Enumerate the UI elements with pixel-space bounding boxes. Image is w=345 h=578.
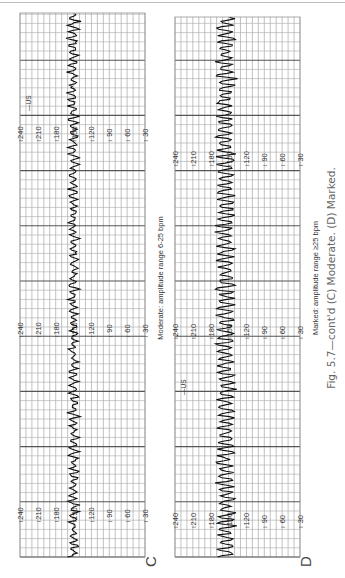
us-marker: —US (180, 379, 187, 395)
y-tick-label: 30 (296, 326, 305, 334)
figure-caption: Fig. 5.7—cont'd (C) Moderate. (D) Marked… (325, 167, 337, 389)
y-tick-label: 240 (16, 322, 25, 335)
y-tick-label: 60 (278, 326, 287, 334)
panel-d-title: Marked: amplitude range ≥25 bpm (311, 221, 320, 335)
y-tick-label: 210 (189, 151, 198, 164)
y-tick-label: 180 (52, 322, 61, 335)
y-tick-label: 90 (105, 509, 114, 517)
y-tick-label: 30 (296, 515, 305, 523)
panel-c-strip: 2402101801501209060302402101801501209060… (16, 13, 150, 557)
y-tick-label: 240 (171, 151, 180, 164)
y-tick-label: 30 (296, 153, 305, 161)
y-tick-label: 120 (87, 126, 96, 139)
panel-d-strip: 2402101801501209060302402101801501209060… (171, 17, 305, 557)
y-tick-label: 240 (16, 126, 25, 139)
y-tick-label: 90 (260, 153, 269, 161)
fhr-trace (215, 18, 238, 558)
strip-border (20, 13, 145, 557)
y-tick-label: 120 (242, 324, 251, 337)
y-tick-label: 180 (52, 507, 61, 520)
y-tick-label: 210 (34, 507, 43, 520)
y-tick-label: 240 (171, 324, 180, 337)
panel-c-letter: C (142, 556, 159, 567)
y-tick-label: 60 (123, 324, 132, 332)
y-tick-label: 210 (34, 126, 43, 139)
y-tick-label: 90 (260, 326, 269, 334)
y-tick-label: 240 (171, 513, 180, 526)
y-tick-label: 120 (87, 507, 96, 520)
y-tick-label: 60 (278, 153, 287, 161)
y-tick-label: 210 (34, 322, 43, 335)
y-tick-label: 180 (52, 126, 61, 139)
y-tick-label: 90 (105, 324, 114, 332)
y-tick-label: 120 (242, 151, 251, 164)
y-tick-label: 30 (141, 509, 150, 517)
y-tick-label: 90 (105, 129, 114, 137)
y-tick-label: 120 (87, 322, 96, 335)
y-tick-label: 180 (207, 151, 216, 164)
panel-d-letter: D (297, 556, 314, 567)
us-marker: —US (25, 95, 32, 111)
figure: 2402101801501209060302402101801501209060… (0, 0, 345, 578)
y-tick-label: 120 (242, 513, 251, 526)
y-tick-label: 240 (16, 507, 25, 520)
strip-border (175, 17, 300, 557)
y-tick-label: 210 (189, 513, 198, 526)
y-tick-label: 180 (207, 513, 216, 526)
y-tick-label: 30 (141, 324, 150, 332)
y-tick-label: 60 (278, 515, 287, 523)
panel-c-title: Moderate: amplitude range 6-25 bpm (156, 216, 165, 339)
y-tick-label: 30 (141, 129, 150, 137)
y-tick-label: 60 (123, 509, 132, 517)
y-tick-label: 60 (123, 129, 132, 137)
y-tick-label: 210 (189, 324, 198, 337)
y-tick-label: 90 (260, 515, 269, 523)
y-tick-label: 180 (207, 324, 216, 337)
